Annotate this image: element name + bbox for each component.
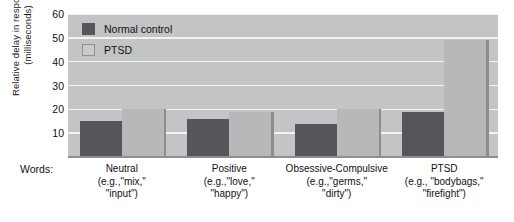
x-category-label: PTSD(e.g., "bodybags,""firefight"): [379, 163, 511, 201]
y-tick-label: 50: [34, 32, 64, 44]
bar-obsessive-compulsive-ptsd: [337, 109, 379, 157]
bar-obsessive-compulsive-normal-control: [295, 124, 337, 157]
legend-label: PTSD: [104, 44, 132, 56]
bar-neutral-ptsd: [122, 109, 164, 157]
x-category-example-line1: (e.g., "bodybags,": [379, 176, 511, 189]
gridline-30: [68, 85, 498, 87]
y-tick-label: 40: [34, 56, 64, 68]
y-tick-label: 30: [34, 80, 64, 92]
y-tick-label: 10: [34, 127, 64, 139]
bar-positive-ptsd: [229, 112, 271, 157]
chart-legend: Normal controlPTSD: [82, 20, 172, 62]
legend-swatch-icon: [82, 44, 95, 56]
legend-label: Normal control: [104, 23, 172, 35]
bar-ptsd-normal-control: [402, 112, 444, 157]
y-axis-title-line1: Relative delay in responding: [10, 0, 21, 96]
x-axis-title: Words:: [20, 163, 53, 175]
bar-ptsd-ptsd: [444, 40, 486, 157]
bar-neutral-normal-control: [80, 121, 122, 157]
y-tick-label: 20: [34, 103, 64, 115]
y-tick-label: 60: [34, 8, 64, 20]
legend-swatch-icon: [82, 23, 95, 35]
x-category-example-line2: "firefight"): [379, 188, 511, 201]
x-axis-line: [68, 156, 498, 158]
y-axis-title-line2: (milliseconds): [22, 0, 34, 110]
x-category-name: PTSD: [379, 163, 511, 176]
bar-positive-normal-control: [187, 119, 229, 157]
legend-item-ptsd[interactable]: PTSD: [82, 41, 172, 59]
gridline-60: [68, 14, 498, 15]
legend-item-normal-control[interactable]: Normal control: [82, 20, 172, 38]
